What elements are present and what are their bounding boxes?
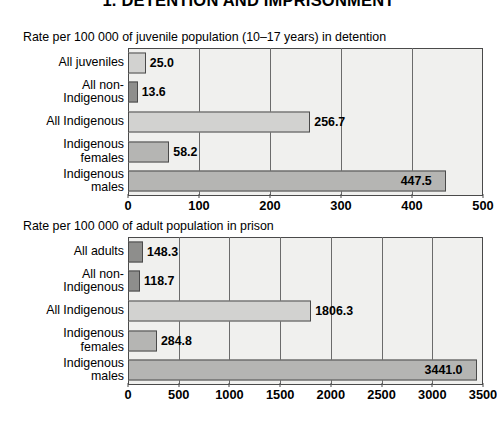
x-tick-label: 1500 bbox=[266, 387, 294, 402]
x-tick-label: 200 bbox=[259, 198, 280, 213]
chart-page: 1. DETENTION AND IMPRISONMENT Rate per 1… bbox=[0, 0, 497, 437]
bar[interactable] bbox=[128, 82, 138, 103]
category-label: All adults bbox=[0, 237, 128, 267]
x-tick-label: 3000 bbox=[418, 387, 446, 402]
bar-value-label: 3441.0 bbox=[425, 363, 463, 377]
x-tick-label: 400 bbox=[401, 198, 422, 213]
bar-value-label: 148.3 bbox=[147, 245, 178, 259]
bar[interactable] bbox=[128, 300, 311, 321]
bar-row: 256.7 bbox=[128, 107, 483, 137]
plot-area: 148.3118.71806.3284.83441.0 bbox=[128, 237, 483, 385]
bar-row: 3441.0 bbox=[128, 355, 483, 385]
plot-area: 25.013.6256.758.2447.5 bbox=[128, 48, 483, 196]
bar-row: 1806.3 bbox=[128, 296, 483, 326]
bar-row: 25.0 bbox=[128, 48, 483, 78]
x-tick-label: 500 bbox=[472, 198, 493, 213]
bar-value-label: 447.5 bbox=[401, 174, 432, 188]
bar-rows: 25.013.6256.758.2447.5 bbox=[128, 48, 483, 196]
bar[interactable] bbox=[128, 111, 310, 132]
bar-value-label: 58.2 bbox=[173, 145, 197, 159]
bar[interactable] bbox=[128, 241, 143, 262]
bar-value-label: 1806.3 bbox=[315, 304, 353, 318]
category-label: All non- Indigenous bbox=[0, 267, 128, 297]
bar[interactable] bbox=[128, 52, 146, 73]
bar-value-label: 13.6 bbox=[142, 85, 166, 99]
x-tick-label: 500 bbox=[168, 387, 189, 402]
x-tick-label: 0 bbox=[124, 198, 131, 213]
x-tick-label: 300 bbox=[330, 198, 351, 213]
page-title: 1. DETENTION AND IMPRISONMENT bbox=[0, 0, 497, 10]
x-tick-label: 2500 bbox=[367, 387, 395, 402]
bar-row: 58.2 bbox=[128, 137, 483, 167]
bar-row: 13.6 bbox=[128, 78, 483, 108]
x-tick-label: 2000 bbox=[317, 387, 345, 402]
category-label: All Indigenous bbox=[0, 107, 128, 137]
chart-subtitle: Rate per 100 000 of juvenile population … bbox=[23, 30, 386, 44]
category-label: All Indigenous bbox=[0, 296, 128, 326]
x-tick-label: 3500 bbox=[469, 387, 497, 402]
x-tick-label: 1000 bbox=[215, 387, 243, 402]
bar[interactable] bbox=[128, 141, 169, 162]
x-axis: 0500100015002000250030003500 bbox=[128, 387, 483, 405]
bar[interactable] bbox=[128, 171, 446, 192]
x-tick-label: 0 bbox=[124, 387, 131, 402]
category-label: Indigenous males bbox=[0, 355, 128, 385]
bar-row: 447.5 bbox=[128, 166, 483, 196]
bar[interactable] bbox=[128, 330, 157, 351]
category-label: Indigenous females bbox=[0, 326, 128, 356]
bar-value-label: 25.0 bbox=[150, 56, 174, 70]
category-label: All non- Indigenous bbox=[0, 78, 128, 108]
bar[interactable] bbox=[128, 271, 140, 292]
x-tick-label: 100 bbox=[188, 198, 209, 213]
bar-row: 118.7 bbox=[128, 267, 483, 297]
bar-rows: 148.3118.71806.3284.83441.0 bbox=[128, 237, 483, 385]
bar-row: 148.3 bbox=[128, 237, 483, 267]
bar-value-label: 256.7 bbox=[314, 115, 345, 129]
bar-value-label: 284.8 bbox=[161, 334, 192, 348]
bar-value-label: 118.7 bbox=[144, 274, 174, 288]
x-axis: 0100200300400500 bbox=[128, 198, 483, 216]
category-label: Indigenous females bbox=[0, 137, 128, 167]
category-label: All juveniles bbox=[0, 48, 128, 78]
chart-subtitle: Rate per 100 000 of adult population in … bbox=[23, 219, 274, 233]
bar-row: 284.8 bbox=[128, 326, 483, 356]
category-label: Indigenous males bbox=[0, 166, 128, 196]
